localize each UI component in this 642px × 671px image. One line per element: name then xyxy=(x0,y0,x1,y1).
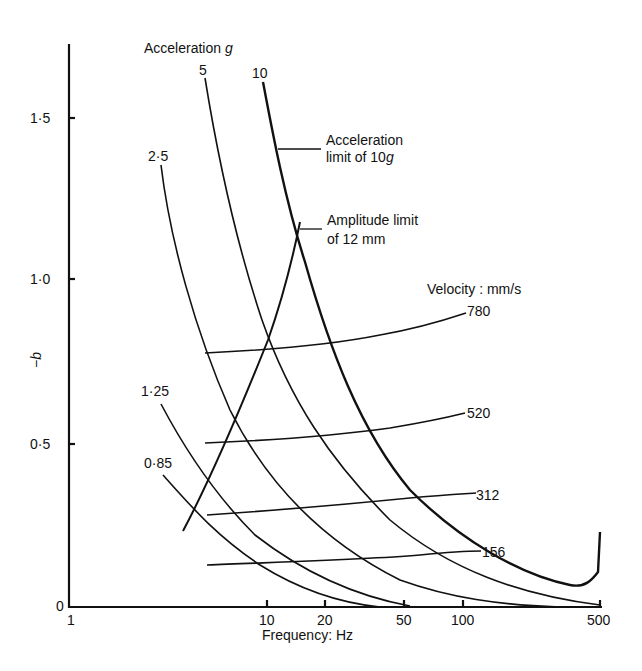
axes xyxy=(68,44,602,608)
x-tick-500: 500 xyxy=(587,612,610,628)
amp-limit-annotation-line2: of 12 mm xyxy=(327,231,385,247)
acc-label-0-85: 0·85 xyxy=(144,455,172,471)
velocity-label-156: 156 xyxy=(482,544,505,560)
acc-limit-annotation-line1: Acceleration xyxy=(326,132,403,148)
acc-label-5: 5 xyxy=(199,62,207,78)
velocity-520-line xyxy=(205,413,465,443)
acc-curve-10g xyxy=(263,82,600,586)
chart-canvas xyxy=(0,0,642,671)
y-tick-1-0: 1·0 xyxy=(30,271,50,287)
acc-limit-annotation-line2: limit of 10g xyxy=(326,149,394,165)
x-axis-label: Frequency: Hz xyxy=(262,627,353,643)
velocity-header: Velocity : mm/s xyxy=(427,281,521,297)
y-tick-1-5: 1·5 xyxy=(30,110,50,126)
acc-label-2-5: 2·5 xyxy=(148,148,168,164)
amplitude-limit-line xyxy=(183,222,300,531)
x-tick-100: 100 xyxy=(451,612,474,628)
velocity-label-312: 312 xyxy=(476,487,499,503)
x-tick-10: 10 xyxy=(259,612,275,628)
acceleration-header: Acceleration g xyxy=(144,40,233,56)
y-axis-label: −b xyxy=(28,352,44,368)
y-tick-0: 0 xyxy=(56,598,64,614)
acc-label-1-25: 1·25 xyxy=(141,383,169,399)
velocity-156-line xyxy=(207,551,481,565)
x-tick-1: 1 xyxy=(67,612,75,628)
velocity-312-line xyxy=(207,493,476,515)
y-tick-0-5: 0·5 xyxy=(30,436,50,452)
x-tick-50: 50 xyxy=(396,612,412,628)
velocity-label-780: 780 xyxy=(467,303,490,319)
acc-label-10: 10 xyxy=(252,65,268,81)
amp-limit-annotation-line1: Amplitude limit xyxy=(327,212,418,228)
velocity-780-line xyxy=(205,313,466,353)
velocity-label-520: 520 xyxy=(467,405,490,421)
acc-curve-5g xyxy=(205,78,600,605)
acc-curve-0-85g xyxy=(163,475,380,607)
x-tick-20: 20 xyxy=(317,612,333,628)
